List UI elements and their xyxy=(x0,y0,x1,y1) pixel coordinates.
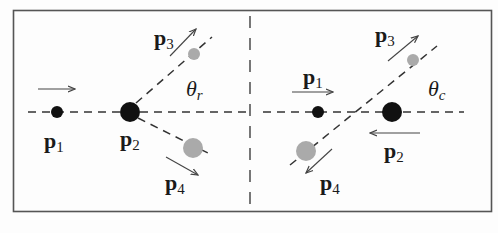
label-p2: p2 xyxy=(384,140,404,165)
label-theta-c: θc xyxy=(428,78,445,103)
label-base: p xyxy=(320,170,332,195)
label-subscript: 3 xyxy=(387,33,395,49)
particle-p4 xyxy=(296,141,316,161)
label-base: θ xyxy=(428,76,439,101)
label-p3: p3 xyxy=(375,24,395,49)
label-subscript: 3 xyxy=(166,36,174,52)
label-base: p xyxy=(154,25,166,50)
label-subscript: 1 xyxy=(315,75,323,91)
label-base: p xyxy=(303,64,315,89)
particle-p2 xyxy=(120,102,140,122)
label-base: p xyxy=(44,128,56,153)
label-p1: p1 xyxy=(303,66,323,91)
label-subscript: c xyxy=(439,87,446,103)
label-p4: p4 xyxy=(320,172,340,197)
label-p2: p2 xyxy=(120,128,140,153)
particle-p3 xyxy=(407,54,419,66)
label-subscript: 2 xyxy=(396,149,404,165)
particle-p2 xyxy=(382,102,402,122)
label-base: p xyxy=(375,22,387,47)
label-p4: p4 xyxy=(165,172,185,197)
label-p3: p3 xyxy=(154,27,174,52)
label-base: p xyxy=(384,138,396,163)
outer-frame xyxy=(14,11,492,212)
label-p1: p1 xyxy=(44,130,64,155)
label-subscript: 1 xyxy=(56,139,64,155)
label-base: θ xyxy=(186,76,197,101)
label-base: p xyxy=(120,126,132,151)
scattering-diagram: p1 p2 p3 p4 θr p1 p2 p3 p4 θc xyxy=(0,0,498,233)
label-base: p xyxy=(165,170,177,195)
cm-frame-panel xyxy=(263,36,464,173)
particle-p1 xyxy=(51,106,63,118)
label-subscript: r xyxy=(197,87,203,103)
label-subscript: 4 xyxy=(177,181,185,197)
particle-p1 xyxy=(312,106,324,118)
label-theta-r: θr xyxy=(186,78,203,103)
particle-p3 xyxy=(188,48,200,60)
particle-p4 xyxy=(183,138,203,158)
label-subscript: 4 xyxy=(332,181,340,197)
label-subscript: 2 xyxy=(132,137,140,153)
diagram-canvas xyxy=(0,0,498,233)
